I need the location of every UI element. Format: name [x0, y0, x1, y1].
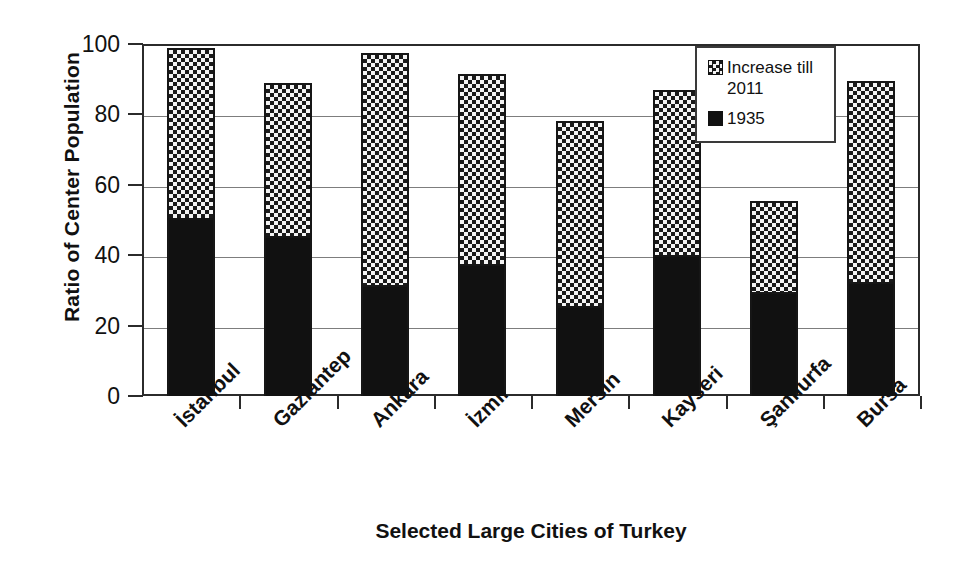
x-tick-mark	[239, 396, 241, 409]
y-tick-mark	[128, 254, 143, 256]
x-axis-category-labels: İstanbulGaziantepAnkaraİzmirMersinKayser…	[142, 409, 920, 514]
y-tick-label: 100	[30, 31, 120, 58]
x-tick-mark	[628, 396, 630, 409]
gridline	[144, 257, 918, 258]
legend-label-1935: 1935	[727, 108, 765, 129]
solid-black-swatch-icon	[708, 111, 723, 126]
chart-figure: Ratio of Center Population 020406080100 …	[0, 0, 966, 575]
legend-label-increase: Increase till 2011	[727, 57, 834, 99]
y-tick-label: 20	[30, 312, 120, 339]
x-tick-mark	[726, 396, 728, 409]
y-tick-label: 0	[30, 383, 120, 410]
x-tick-mark	[920, 396, 922, 409]
y-tick-label: 60	[30, 171, 120, 198]
x-tick-mark	[337, 396, 339, 409]
legend-entry-1935: 1935	[708, 108, 834, 129]
y-tick-mark	[128, 184, 143, 186]
gridline	[144, 328, 918, 329]
y-tick-label: 80	[30, 101, 120, 128]
y-tick-mark	[128, 113, 143, 115]
x-tick-mark	[531, 396, 533, 409]
x-axis-title: Selected Large Cities of Turkey	[142, 519, 920, 543]
chart-legend: Increase till 2011 1935	[695, 46, 836, 143]
y-tick-label: 40	[30, 242, 120, 269]
y-tick-mark	[128, 325, 143, 327]
gridline	[144, 187, 918, 188]
x-tick-mark	[434, 396, 436, 409]
x-tick-mark	[823, 396, 825, 409]
y-tick-mark	[128, 43, 143, 45]
y-tick-mark	[128, 395, 143, 397]
legend-entry-increase: Increase till 2011	[708, 57, 834, 99]
checkerboard-swatch-icon	[708, 60, 723, 75]
